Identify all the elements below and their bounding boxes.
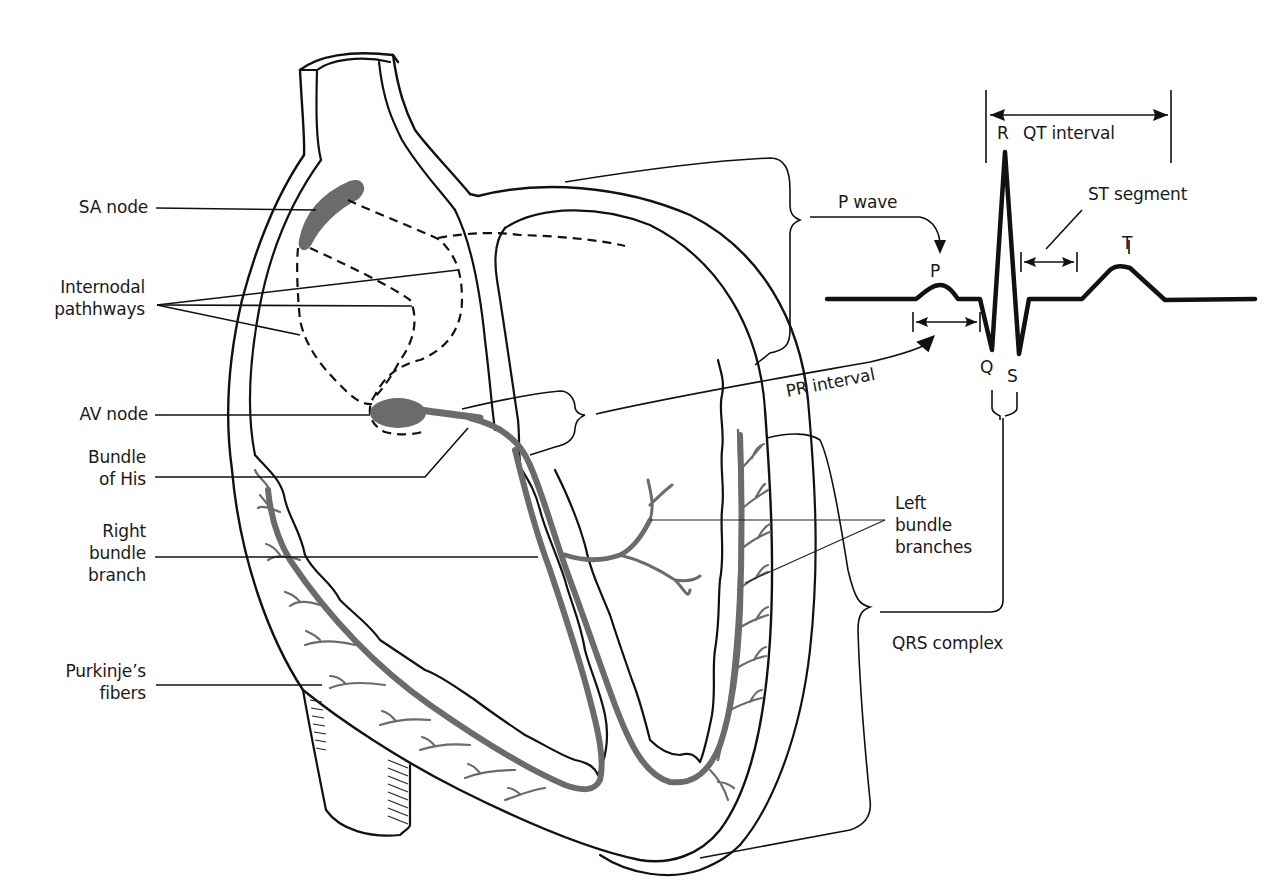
label-line: bundle — [40, 542, 146, 564]
label-line: Left — [895, 492, 972, 514]
label-right-bundle-branch: Right bundle branch — [40, 520, 146, 586]
label-p-wave: P wave — [838, 191, 897, 213]
label-line: fibers — [30, 682, 146, 704]
label-line: Bundle — [40, 446, 146, 468]
av-node-and-bundles — [268, 398, 742, 789]
ecg-trace — [827, 152, 1255, 354]
label-line: branch — [40, 564, 146, 586]
label-av-node: AV node — [40, 403, 148, 425]
label-line: of His — [40, 468, 146, 490]
label-line: SA node — [40, 196, 148, 218]
heart-outline — [228, 53, 815, 875]
ecg-annotation-lines — [596, 210, 1082, 612]
label-left-bundle-branches: Left bundle branches — [895, 492, 972, 558]
sa-node-shape — [300, 181, 363, 249]
wave-label-s: S — [1007, 365, 1018, 387]
label-line: Right — [40, 520, 146, 542]
conduction-diagram: SA node Internodal pathhways AV node Bun… — [0, 0, 1288, 891]
label-qt-interval: QT interval — [1023, 122, 1115, 144]
label-bundle-of-his: Bundle of His — [40, 446, 146, 490]
internodal-pathways-paths — [297, 200, 625, 434]
label-sa-node: SA node — [40, 196, 148, 218]
label-st-segment: ST segment — [1088, 183, 1187, 205]
label-purkinje-fibers: Purkinje’s fibers — [30, 660, 146, 704]
label-line: bundle — [895, 514, 972, 536]
label-line: pathhways — [20, 298, 145, 320]
wave-label-r: R — [997, 122, 1009, 144]
label-internodal-pathways: Internodal pathhways — [20, 276, 145, 320]
label-line: branches — [895, 536, 972, 558]
label-line: AV node — [40, 403, 148, 425]
label-line: Purkinje’s — [30, 660, 146, 682]
label-qrs-complex: QRS complex — [892, 632, 1003, 654]
wave-label-p: P — [930, 260, 940, 282]
wave-label-t: T — [1122, 232, 1132, 254]
label-line: Internodal — [20, 276, 145, 298]
wave-label-q: Q — [980, 356, 993, 378]
